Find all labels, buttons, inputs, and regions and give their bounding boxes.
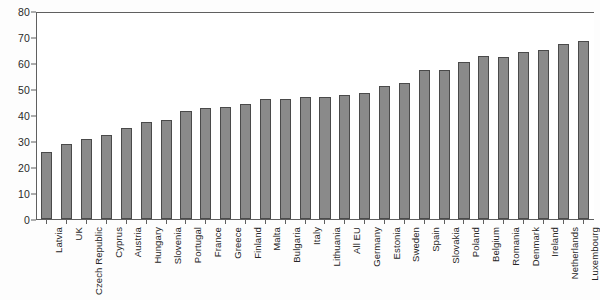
bar[interactable] [478, 56, 489, 220]
x-tick-mark [265, 220, 266, 224]
bar[interactable] [260, 99, 271, 219]
bar[interactable] [419, 70, 430, 219]
bar[interactable] [200, 108, 211, 219]
bar-slot [414, 13, 434, 219]
y-tick-label: 80 [18, 6, 30, 18]
x-label-slot: Estonia [375, 225, 395, 299]
bar[interactable] [121, 128, 132, 219]
x-label-slot: Latvia [37, 225, 57, 299]
bar[interactable] [558, 44, 569, 219]
bar[interactable] [379, 86, 390, 219]
bar-slot [196, 13, 216, 219]
bar[interactable] [538, 50, 549, 219]
x-tick-mark [503, 220, 504, 224]
x-tick-mark [225, 220, 226, 224]
bar-slot [116, 13, 136, 219]
bar[interactable] [498, 57, 509, 219]
bar[interactable] [180, 111, 191, 219]
x-tick-label: Luxembourg [589, 227, 600, 281]
y-tick-label: 20 [18, 162, 30, 174]
bar-slot [315, 13, 335, 219]
bar-slot [275, 13, 295, 219]
bar[interactable] [101, 135, 112, 219]
chart-page: 01020304050607080 LatviaUKCzech Republic… [0, 0, 600, 300]
x-label-slot: Luxembourg [573, 225, 593, 299]
x-label-slot: Lithuania [315, 225, 335, 299]
bar-slot [454, 13, 474, 219]
bar-slot [136, 13, 156, 219]
bar-slot [236, 13, 256, 219]
bar-slot [176, 13, 196, 219]
bar[interactable] [240, 104, 251, 219]
x-tick-mark [146, 220, 147, 224]
bar-slot [514, 13, 534, 219]
x-label-slot: Slovenia [156, 225, 176, 299]
x-label-slot: Poland [454, 225, 474, 299]
bar[interactable] [319, 97, 330, 219]
bar[interactable] [359, 93, 370, 219]
bar-slot [97, 13, 117, 219]
x-tick-mark [126, 220, 127, 224]
y-tick-label: 30 [18, 136, 30, 148]
bar-slot [295, 13, 315, 219]
y-tick-label: 0 [24, 214, 30, 226]
bar-slot [434, 13, 454, 219]
bar[interactable] [61, 144, 72, 219]
x-tick-mark [205, 220, 206, 224]
x-tick-mark [324, 220, 325, 224]
x-label-slot: France [196, 225, 216, 299]
bar[interactable] [41, 152, 52, 219]
x-tick-mark [166, 220, 167, 224]
x-label-slot: Malta [255, 225, 275, 299]
bar[interactable] [518, 52, 529, 219]
x-label-slot: UK [57, 225, 77, 299]
y-axis-labels: 01020304050607080 [0, 12, 30, 220]
x-label-slot: Belgium [474, 225, 494, 299]
bars-container [37, 13, 593, 219]
x-label-slot: Italy [295, 225, 315, 299]
bar-slot [77, 13, 97, 219]
bar-slot [494, 13, 514, 219]
bar[interactable] [141, 122, 152, 219]
x-tick-mark [483, 220, 484, 224]
bar[interactable] [578, 41, 589, 219]
bar-slot [533, 13, 553, 219]
x-tick-mark [523, 220, 524, 224]
bar[interactable] [458, 62, 469, 219]
bar[interactable] [339, 95, 350, 219]
bar[interactable] [300, 97, 311, 219]
bar-slot [255, 13, 275, 219]
x-label-slot: Portugal [176, 225, 196, 299]
x-axis-labels: LatviaUKCzech RepublicCyprusAustriaHunga… [37, 225, 593, 299]
x-tick-mark [364, 220, 365, 224]
x-label-slot: Ireland [533, 225, 553, 299]
bar[interactable] [439, 70, 450, 219]
bar[interactable] [280, 99, 291, 219]
x-tick-mark [424, 220, 425, 224]
x-tick-mark [185, 220, 186, 224]
bar-slot [394, 13, 414, 219]
x-label-slot: Bulgaria [275, 225, 295, 299]
bar-slot [553, 13, 573, 219]
x-label-slot: Czech Republic [77, 225, 97, 299]
x-tick-mark [106, 220, 107, 224]
x-tick-mark [86, 220, 87, 224]
bar-slot [156, 13, 176, 219]
bar-slot [335, 13, 355, 219]
x-tick-mark [583, 220, 584, 224]
y-tick-label: 50 [18, 84, 30, 96]
bar[interactable] [161, 120, 172, 219]
y-tick-label: 70 [18, 32, 30, 44]
x-tick-mark [404, 220, 405, 224]
y-tick-label: 10 [18, 188, 30, 200]
bar-slot [57, 13, 77, 219]
bar-slot [37, 13, 57, 219]
bar-slot [573, 13, 593, 219]
bar[interactable] [220, 107, 231, 219]
bar[interactable] [81, 139, 92, 219]
bar-slot [474, 13, 494, 219]
x-label-slot: Finland [236, 225, 256, 299]
bar[interactable] [399, 83, 410, 219]
bar-slot [375, 13, 395, 219]
x-tick-mark [463, 220, 464, 224]
